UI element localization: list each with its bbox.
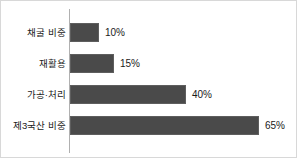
bar-value-label: 10% [105,23,125,42]
bar-category-label: 가공·처리 [27,85,66,104]
bar-fill [70,54,114,73]
bar-category-label: 제3국산 비중 [13,116,66,135]
bar-track [70,116,259,135]
bar-row: 제3국산 비중 65% [1,116,297,135]
bar-value-label: 40% [192,85,212,104]
bar-track [70,23,99,42]
bar-row: 재활용 15% [1,54,297,73]
bar-category-label: 재활용 [39,54,66,73]
horizontal-bar-chart: 채굴 비중 10% 재활용 15% 가공·처리 40% 제3국산 비중 [0,0,297,158]
bar-row: 채굴 비중 10% [1,23,297,42]
bar-series: 채굴 비중 10% 재활용 15% 가공·처리 40% 제3국산 비중 [1,1,297,158]
bar-row: 가공·처리 40% [1,85,297,104]
bar-fill [70,116,259,135]
bar-fill [70,23,99,42]
bar-track [70,54,114,73]
bar-value-label: 65% [265,116,285,135]
bar-value-label: 15% [120,54,140,73]
bar-track [70,85,186,104]
bar-category-label: 채굴 비중 [27,23,66,42]
bar-fill [70,85,186,104]
